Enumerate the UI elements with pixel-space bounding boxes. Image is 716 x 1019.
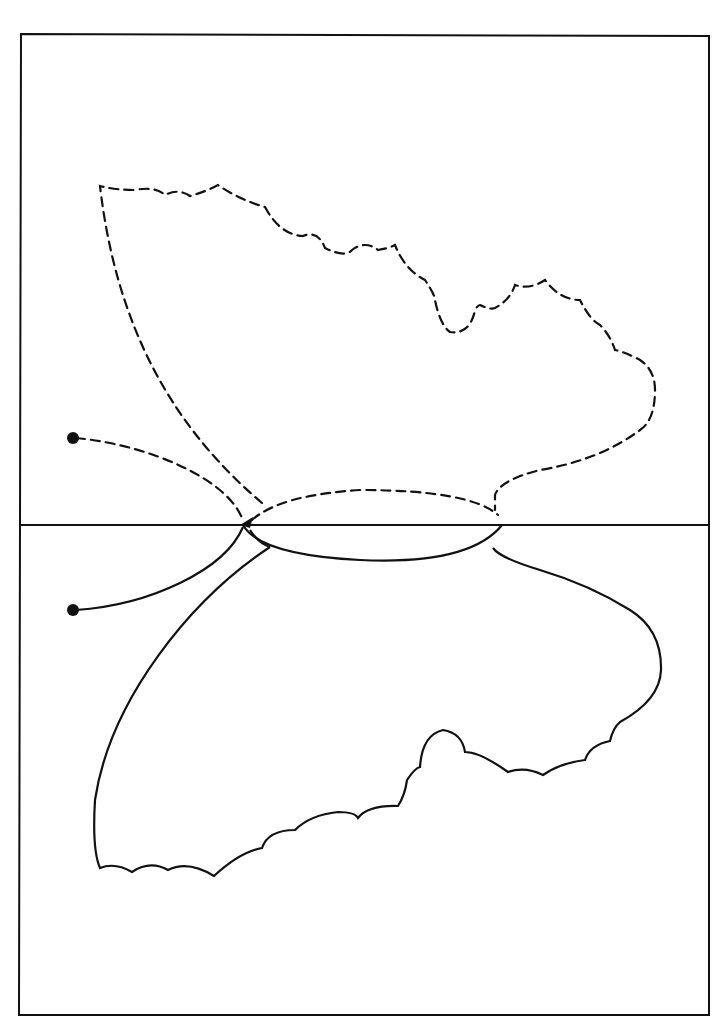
upper-wing-dashed [100, 185, 655, 510]
lower-wing-solid [94, 547, 661, 876]
upper-body-dashed [252, 490, 498, 520]
lower-antenna-solid [76, 527, 243, 610]
body-head-point [240, 517, 253, 528]
worksheet-canvas [0, 0, 716, 1019]
upper-antenna-tip [67, 432, 79, 444]
butterfly-symmetry-diagram [0, 0, 716, 1019]
upper-antenna-dashed [76, 438, 243, 521]
lower-antenna-tip [67, 604, 79, 616]
lower-body-solid [243, 525, 502, 561]
